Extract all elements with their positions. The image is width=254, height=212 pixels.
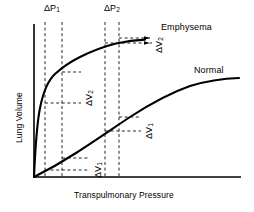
- delta-v2-small-text: ΔV: [154, 41, 164, 53]
- delta-v2-large-label: ΔV2: [84, 90, 94, 106]
- normal-curve-label: Normal: [194, 65, 224, 75]
- delta-v2-small-label: ΔV2: [154, 37, 164, 53]
- delta-v1-upper-label: ΔV1: [144, 123, 154, 139]
- figure-lung-compliance-chart: ΔP1 ΔP2 Emphysema Normal ΔV2 ΔV2 ΔV1 ΔV1…: [0, 0, 254, 212]
- delta-p1-text: ΔP: [44, 3, 56, 13]
- delta-v1-lower-subscript: 1: [96, 162, 103, 166]
- emphysema-curve-label: Emphysema: [161, 22, 212, 32]
- delta-p1-subscript: 1: [56, 6, 60, 13]
- delta-p2-subscript: 2: [116, 6, 120, 13]
- delta-p1-label: ΔP1: [44, 3, 60, 13]
- axis-lines: [34, 24, 241, 177]
- delta-v1-upper-subscript: 1: [147, 123, 154, 127]
- arrowhead-lower: [144, 41, 150, 45]
- delta-p2-label: ΔP2: [104, 3, 120, 13]
- volume-guide-lines: [45, 38, 152, 170]
- delta-p2-text: ΔP: [104, 3, 116, 13]
- delta-v2-large-text: ΔV: [84, 94, 94, 106]
- curve-normal: [34, 78, 239, 177]
- delta-v2-large-subscript: 2: [87, 90, 94, 94]
- y-axis-label: Lung Volume: [14, 92, 24, 143]
- chart-canvas: [0, 0, 254, 212]
- x-axis-label: Transpulmonary Pressure: [74, 190, 174, 200]
- delta-v1-lower-label: ΔV1: [93, 162, 103, 178]
- delta-v1-lower-text: ΔV: [93, 166, 103, 178]
- delta-v1-upper-text: ΔV: [144, 127, 154, 139]
- curve-emphysema: [34, 40, 145, 177]
- delta-v2-small-subscript: 2: [157, 37, 164, 41]
